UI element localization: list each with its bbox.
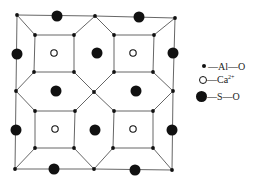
al-o-node-icon xyxy=(33,109,37,113)
bond-line xyxy=(153,91,173,111)
bond-line xyxy=(94,72,114,92)
bond-line xyxy=(74,111,75,148)
bond-line xyxy=(94,92,114,111)
so-group-icon xyxy=(49,164,60,175)
bond-line xyxy=(16,72,34,91)
al-o-node-icon xyxy=(170,168,174,172)
ca-ion-icon xyxy=(130,50,136,56)
al-o-node-icon xyxy=(13,167,17,171)
so-group-icon xyxy=(51,86,62,97)
bond-line xyxy=(154,18,175,35)
al-o-node-icon xyxy=(151,109,155,113)
al-o-node-icon xyxy=(171,89,175,93)
al-o-node-icon xyxy=(33,146,37,150)
so-group-icon xyxy=(12,49,23,60)
so-group-icon xyxy=(134,12,145,23)
crystal-structure-diagram xyxy=(0,0,190,181)
al-o-node-icon xyxy=(92,167,96,171)
so-group-icon xyxy=(131,86,142,97)
so-group-icon xyxy=(52,11,63,22)
bond-line xyxy=(75,92,94,111)
so-group-icon xyxy=(90,125,101,136)
bond-line xyxy=(74,72,94,92)
so-group-icon xyxy=(168,48,179,59)
so-group-icon xyxy=(92,48,103,59)
bond-line xyxy=(153,148,172,170)
bond-line xyxy=(74,16,95,35)
bond-line xyxy=(16,91,35,111)
bond-line xyxy=(153,35,154,72)
al-o-node-icon xyxy=(15,13,19,17)
ca-charge: 2+ xyxy=(228,74,234,80)
bond-line xyxy=(153,72,173,91)
al-o-node-icon xyxy=(112,70,116,74)
al-o-node-icon xyxy=(111,146,115,150)
bond-line xyxy=(95,16,114,35)
so-group-icon xyxy=(167,125,178,136)
ca-ion-icon xyxy=(52,126,58,132)
ca-ion-icon xyxy=(51,50,57,56)
al-o-node-icon xyxy=(93,14,97,18)
al-o-node-icon xyxy=(73,109,77,113)
al-o-node-icon xyxy=(151,146,155,150)
al-o-node-icon xyxy=(72,33,76,37)
al-o-node-icon xyxy=(112,109,116,113)
bond-line xyxy=(113,111,114,148)
al-o-node-icon xyxy=(72,146,76,150)
bond-line xyxy=(15,148,35,169)
bond-line xyxy=(74,148,94,169)
ca-ion-icon xyxy=(130,126,136,132)
al-dot-icon xyxy=(202,64,206,68)
al-o-node-icon xyxy=(33,33,37,37)
al-o-node-icon xyxy=(151,70,155,74)
al-o-node-icon xyxy=(92,90,96,94)
al-o-node-icon xyxy=(152,33,156,37)
legend-label-s-o: —S—O xyxy=(207,91,240,102)
ca-text: —Ca xyxy=(207,75,228,86)
al-o-node-icon xyxy=(14,89,18,93)
legend-item-ca: —Ca2+ xyxy=(196,73,235,87)
bond-line xyxy=(17,15,35,35)
s-filled-circle-icon xyxy=(196,91,207,102)
bond-line xyxy=(34,35,35,72)
legend-label-ca: —Ca2+ xyxy=(207,74,235,85)
legend-item-al-o: —Al—O xyxy=(196,59,245,73)
so-group-icon xyxy=(130,165,141,176)
ca-open-circle-icon xyxy=(199,76,207,84)
al-o-node-icon xyxy=(173,16,177,20)
al-o-node-icon xyxy=(112,33,116,37)
al-o-node-icon xyxy=(72,70,76,74)
legend-label-al-o: —Al—O xyxy=(208,61,245,72)
al-o-node-icon xyxy=(32,70,36,74)
legend-item-s-o: —S—O xyxy=(196,89,240,103)
so-group-icon xyxy=(11,125,22,136)
bond-line xyxy=(94,148,113,169)
